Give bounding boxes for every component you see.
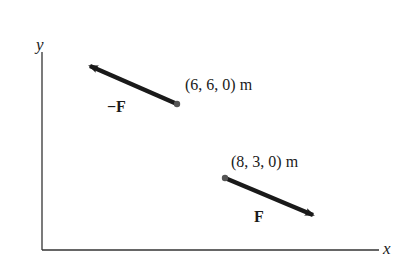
force-vector: F (8, 3, 0) m [222, 153, 313, 225]
axes: y x [34, 35, 391, 258]
neg-force-arrow [90, 66, 177, 104]
force-point-label: (8, 3, 0) m [231, 153, 299, 171]
force-couple-diagram: y x −F (6, 6, 0) m F (8, 3, 0) m [0, 0, 414, 271]
application-point-dot [222, 175, 228, 181]
neg-force-vector: −F (6, 6, 0) m [90, 66, 253, 115]
neg-force-point-label: (6, 6, 0) m [185, 76, 253, 94]
neg-force-label: −F [107, 98, 126, 115]
force-label: F [254, 208, 264, 225]
application-point-dot [174, 101, 180, 107]
y-axis-label: y [34, 35, 44, 54]
force-arrow [225, 178, 313, 215]
x-axis-label: x [382, 239, 391, 258]
